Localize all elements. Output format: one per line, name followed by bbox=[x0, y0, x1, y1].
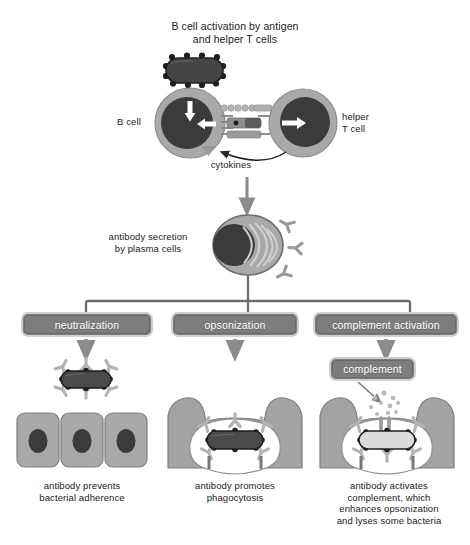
branch-label-opsonization[interactable]: opsonization bbox=[172, 319, 298, 331]
phagocyte-complement bbox=[320, 390, 454, 474]
complement-box-label[interactable]: complement bbox=[330, 363, 415, 375]
caption-opsonization: antibody promotes phagocytosis bbox=[166, 480, 304, 503]
b-cell-label: B cell bbox=[108, 116, 150, 128]
plasma-cell bbox=[213, 215, 283, 275]
caption-complement-activation: antibody activates complement, which enh… bbox=[314, 480, 464, 526]
neutralized-bacterium bbox=[55, 358, 117, 398]
branch-label-complement-activation[interactable]: complement activation bbox=[314, 319, 458, 331]
figure-canvas: B cell activation by antigen and helper … bbox=[0, 0, 470, 545]
cytokines-label: cytokines bbox=[196, 159, 266, 171]
figure-title: B cell activation by antigen and helper … bbox=[135, 20, 335, 45]
lysis-particles bbox=[369, 390, 400, 416]
phagocyte-opsonization bbox=[168, 398, 302, 474]
b-cell bbox=[155, 88, 225, 158]
immunology-diagram bbox=[0, 0, 470, 545]
helper-t-cell bbox=[269, 89, 337, 157]
branch-connector bbox=[86, 275, 410, 313]
epithelial-cell-sheet bbox=[17, 413, 147, 467]
antigen-bacterium bbox=[163, 52, 226, 88]
helper-t-cell-label: helper T cell bbox=[342, 111, 402, 134]
immune-synapse bbox=[221, 105, 272, 138]
caption-neutralization: antibody prevents bacterial adherence bbox=[12, 480, 152, 503]
plasma-cell-label: antibody secretion by plasma cells bbox=[92, 231, 204, 254]
branch-label-neutralization[interactable]: neutralization bbox=[22, 319, 152, 331]
